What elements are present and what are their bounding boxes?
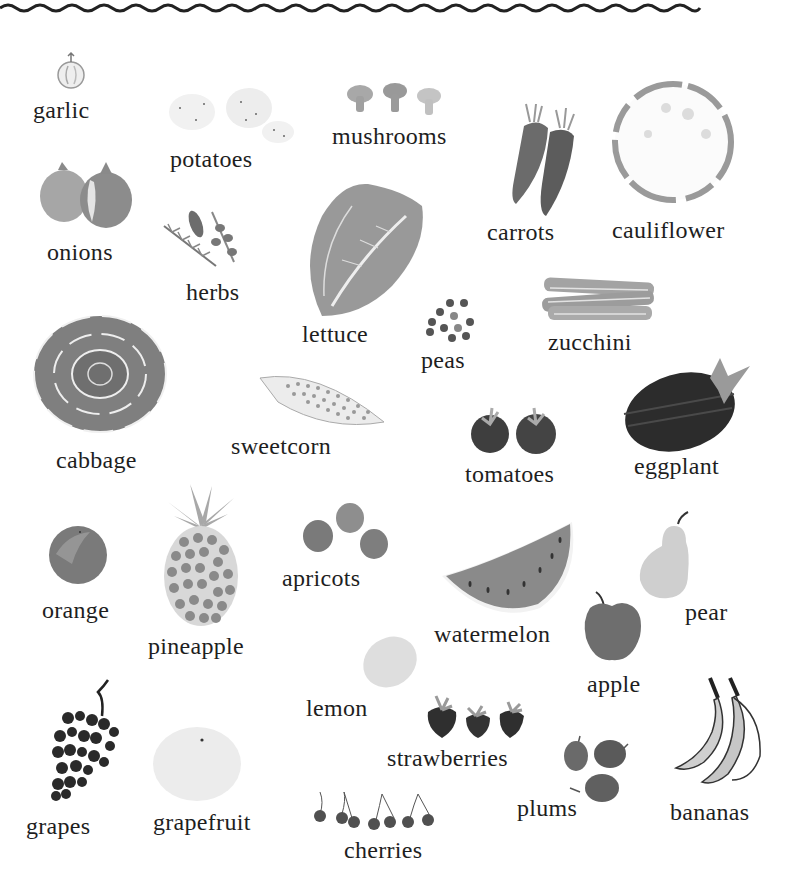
label-onions: onions [47,240,113,264]
pear-icon [634,512,698,600]
label-mushrooms: mushrooms [332,124,447,148]
grapes-icon [48,678,126,804]
label-peas: peas [421,348,465,372]
label-lettuce: lettuce [302,322,368,346]
label-watermelon: watermelon [434,622,550,646]
label-pear: pear [685,600,728,624]
label-zucchini: zucchini [548,330,632,354]
potatoes-icon [166,86,296,146]
peas-icon [424,298,476,344]
cherries-icon [312,790,446,830]
label-carrots: carrots [487,220,554,244]
label-herbs: herbs [186,280,239,304]
label-plums: plums [517,796,577,820]
label-pineapple: pineapple [148,634,244,658]
label-grapefruit: grapefruit [153,810,251,834]
eggplant-icon [624,354,752,454]
label-orange: orange [42,598,109,622]
label-apple: apple [587,672,640,696]
garlic-icon [54,48,88,92]
apple-icon [582,592,644,664]
zucchini-icon [540,278,660,324]
tomatoes-icon [470,404,562,454]
label-tomatoes: tomatoes [465,462,554,486]
watermelon-icon [440,520,576,616]
pineapple-icon [160,480,242,626]
cabbage-icon [32,314,170,434]
plums-icon [562,732,638,802]
sweetcorn-icon [258,372,388,432]
lettuce-icon [302,176,428,318]
label-cabbage: cabbage [56,448,137,472]
label-potatoes: potatoes [170,147,252,171]
grapefruit-icon [152,726,242,802]
label-cauliflower: cauliflower [612,218,725,242]
label-sweetcorn: sweetcorn [231,434,331,458]
label-eggplant: eggplant [634,454,719,478]
label-grapes: grapes [26,814,90,838]
onions-icon [36,160,136,232]
bananas-icon [672,676,768,792]
herbs-icon [160,208,244,268]
label-garlic: garlic [33,98,89,122]
strawberries-icon [424,692,530,740]
label-lemon: lemon [306,696,368,720]
mushrooms-icon [345,82,445,120]
apricots-icon [302,502,392,562]
orange-icon [48,524,108,586]
lemon-icon [360,634,420,690]
label-apricots: apricots [282,566,360,590]
cauliflower-icon [606,74,740,214]
label-strawberries: strawberries [387,746,508,770]
carrots-icon [508,100,584,218]
wavy-border [0,0,700,16]
label-cherries: cherries [344,838,422,862]
label-bananas: bananas [670,800,749,824]
